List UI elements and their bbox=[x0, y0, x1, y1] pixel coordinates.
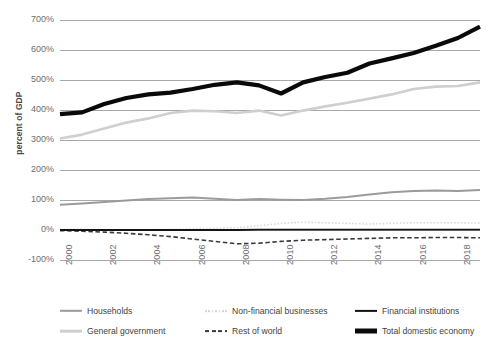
legend-swatch-dotted-light-gray-line bbox=[205, 306, 227, 316]
series-line bbox=[60, 222, 480, 230]
y-axis-tick-label: 100% bbox=[6, 194, 54, 204]
legend-item[interactable]: Financial institutions bbox=[355, 306, 459, 316]
legend-item[interactable]: Non-financial businesses bbox=[205, 306, 328, 316]
legend-item[interactable]: General government bbox=[60, 326, 165, 336]
legend-label: Financial institutions bbox=[382, 306, 459, 316]
y-axis-tick-label: 600% bbox=[6, 44, 54, 54]
legend-swatch-solid-thick-black-line bbox=[355, 326, 377, 336]
y-axis-title: percent of GDP bbox=[14, 68, 24, 178]
legend-item[interactable]: Households bbox=[60, 306, 132, 316]
legend-swatch-solid-light-gray-line bbox=[60, 326, 82, 336]
chart-container: percent of GDP 700%600%500%400%300%200%1… bbox=[0, 0, 491, 351]
series-line bbox=[60, 27, 480, 115]
series-line bbox=[60, 231, 480, 244]
chart-legend: HouseholdsNon-financial businessesFinanc… bbox=[60, 306, 485, 348]
legend-label: General government bbox=[87, 326, 165, 336]
legend-label: Rest of world bbox=[232, 326, 282, 336]
y-axis-tick-label: 500% bbox=[6, 74, 54, 84]
legend-swatch-dashed-dark-line bbox=[205, 326, 227, 336]
gridline bbox=[60, 260, 480, 261]
legend-label: Households bbox=[87, 306, 132, 316]
y-axis-tick-label: 700% bbox=[6, 14, 54, 24]
y-axis-tick-label: -100% bbox=[6, 254, 54, 264]
series-lines bbox=[60, 20, 480, 260]
legend-label: Non-financial businesses bbox=[232, 306, 328, 316]
series-line bbox=[60, 190, 480, 205]
y-axis-tick-label: 0% bbox=[6, 224, 54, 234]
legend-swatch-solid-medium-gray-line bbox=[60, 306, 82, 316]
plot-area bbox=[60, 20, 480, 260]
legend-label: Total domestic economy bbox=[382, 326, 474, 336]
legend-item[interactable]: Rest of world bbox=[205, 326, 282, 336]
y-axis-tick-label: 200% bbox=[6, 164, 54, 174]
y-axis-tick-label: 400% bbox=[6, 104, 54, 114]
legend-swatch-solid-thin-black-line bbox=[355, 306, 377, 316]
y-axis-tick-label: 300% bbox=[6, 134, 54, 144]
legend-item[interactable]: Total domestic economy bbox=[355, 326, 474, 336]
